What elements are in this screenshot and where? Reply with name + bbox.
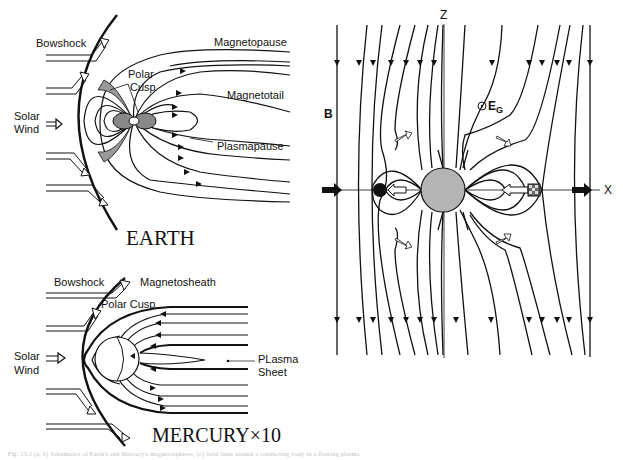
label-magnetotail: Magnetotail	[227, 89, 284, 101]
label-polar-cusp-1: Polar	[128, 68, 154, 80]
label-magnetic-field-b: B	[324, 108, 333, 120]
label-plasma-sheet-1: PLasma	[258, 353, 298, 365]
label-electric-field-sub: G	[496, 105, 503, 115]
label-electric-field: EG	[488, 100, 503, 116]
label-plasmapause: Plasmapause	[217, 140, 284, 152]
label-magnetosheath: Magnetosheath	[140, 276, 216, 288]
label-solar-wind-2-earth: Wind	[14, 123, 39, 135]
label-solar-wind-2-mercury: Wind	[14, 364, 39, 376]
label-bowshock-mercury: Bowshock	[54, 276, 104, 288]
label-plasma-sheet-2: Sheet	[258, 366, 287, 378]
label-solar-wind-1-earth: Solar	[14, 110, 40, 122]
planet	[421, 168, 465, 212]
label-bowshock-earth: Bowshock	[36, 37, 86, 49]
label-polar-cusp-mercury: Polar Cusp	[101, 298, 155, 310]
figure: Bowshock Magnetopause Polar Cusp Magneto…	[0, 0, 623, 460]
label-solar-wind-1-mercury: Solar	[14, 350, 40, 362]
field-line-diagram	[310, 0, 623, 460]
axis-label-z: Z	[440, 8, 447, 22]
label-magnetopause: Magnetopause	[214, 36, 287, 48]
label-electric-field-e: E	[488, 99, 496, 113]
figure-caption: Fig. 13.1 (a, b) Schematics of Earth's a…	[8, 451, 360, 457]
mercury-title: MERCURY×10	[152, 424, 281, 447]
label-polar-cusp-2: Cusp	[130, 81, 156, 93]
axis-label-x: X	[604, 183, 612, 197]
earth-title: EARTH	[126, 226, 195, 251]
